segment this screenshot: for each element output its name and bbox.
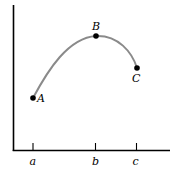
- x-tick-label-a: a: [30, 155, 37, 168]
- point-c: [134, 65, 140, 71]
- x-tick-label-b: b: [92, 155, 99, 168]
- point-b: [93, 33, 99, 39]
- diagram-canvas: A B C a b c: [0, 0, 182, 173]
- point-label-a: A: [36, 92, 45, 105]
- point-label-b: B: [91, 20, 100, 33]
- function-curve: [33, 36, 137, 98]
- point-a: [30, 95, 36, 101]
- curve-diagram: A B C a b c: [0, 0, 182, 173]
- point-label-c: C: [132, 72, 141, 85]
- x-tick-label-c: c: [133, 155, 139, 168]
